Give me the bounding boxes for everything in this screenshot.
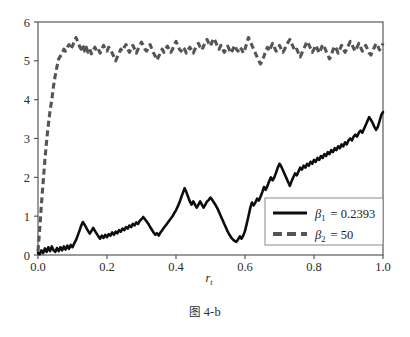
x-tick-label: 1.0: [375, 260, 391, 274]
y-tick-label: 0: [24, 249, 30, 263]
x-tick-label: 0.0: [30, 260, 46, 274]
legend-label-beta2: β2 = 50: [314, 228, 353, 244]
figure-caption-cjk-glyph: 图: [189, 305, 200, 319]
legend-label-subscript: 2: [321, 234, 325, 244]
figure-4b: 0123456 0.00.20.40.60.81.0 rt β1 = 0.239…: [0, 0, 410, 337]
x-axis-title-text: rt: [206, 271, 214, 287]
chart-legend[interactable]: β1 = 0.2393β2 = 50: [265, 198, 383, 245]
y-tick-label: 1: [24, 210, 30, 224]
legend-label-subscript: 1: [321, 213, 325, 223]
x-tick-label: 0.8: [306, 260, 322, 274]
y-tick-label: 3: [24, 132, 30, 146]
y-tick-label: 2: [24, 171, 30, 185]
x-axis: 0.00.20.40.60.81.0: [30, 255, 391, 274]
figure-caption: 图 4-b: [0, 303, 410, 320]
legend-label-value: = 0.2393: [327, 207, 375, 221]
y-axis: 0123456: [24, 16, 38, 263]
x-axis-title-subscript: t: [210, 278, 213, 287]
legend-label-value: = 50: [327, 228, 353, 242]
figure-caption-number: 4-b: [204, 305, 221, 319]
x-tick-label: 0.2: [99, 260, 115, 274]
chart-canvas: 0123456 0.00.20.40.60.81.0 rt β1 = 0.239…: [0, 0, 410, 337]
y-tick-label: 4: [24, 93, 31, 107]
x-tick-label: 0.6: [237, 260, 253, 274]
x-tick-label: 0.4: [168, 260, 184, 274]
y-tick-label: 6: [24, 16, 30, 30]
y-tick-label: 5: [24, 54, 30, 68]
x-axis-title: rt: [206, 271, 214, 287]
